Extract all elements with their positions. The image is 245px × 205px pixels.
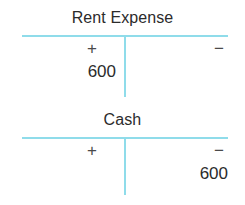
debit-sign: +: [0, 38, 115, 60]
t-account-rent-expense: Rent Expense + − 600: [0, 8, 245, 28]
account-title: Cash: [0, 110, 245, 130]
sign-row: + −: [0, 38, 245, 60]
t-account-cash: Cash + − 600: [0, 110, 245, 130]
credit-sign: −: [135, 38, 228, 60]
sign-row: + −: [0, 140, 245, 162]
credit-sign: −: [135, 140, 228, 162]
amount-row: 600: [0, 60, 245, 84]
debit-sign: +: [0, 140, 115, 162]
t-account-diagram: Rent Expense + − 600 Cash + − 600: [0, 0, 245, 205]
amount-row: 600: [0, 162, 245, 186]
account-title: Rent Expense: [0, 8, 245, 28]
debit-amount: 600: [0, 60, 116, 84]
credit-amount: 600: [132, 162, 228, 186]
